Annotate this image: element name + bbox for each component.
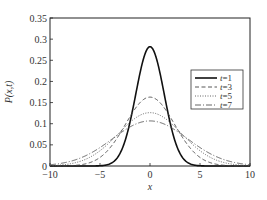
x-tick-label: −10 (42, 169, 58, 180)
y-tick-label: 0.2 (35, 76, 48, 87)
series-line-t7 (50, 121, 250, 165)
y-axis-label: P(x,t) (3, 80, 15, 104)
x-tick-label: 5 (198, 169, 203, 180)
y-tick-label: 0.05 (30, 139, 48, 150)
y-tick-label: 0.25 (30, 55, 48, 66)
legend: t=1t=3t=5t=7 (191, 70, 243, 110)
y-tick-label: 0.15 (30, 97, 48, 108)
legend-box (191, 70, 243, 109)
y-tick-label: 0.3 (35, 34, 48, 45)
chart: 00.050.10.150.20.250.30.35 −10−50510 x P… (0, 0, 267, 200)
y-tick-label: 0.35 (30, 13, 48, 24)
x-tick-label: 10 (245, 169, 255, 180)
x-tick-label: 0 (148, 169, 153, 180)
y-axis-ticks: 00.050.10.150.20.250.30.35 (30, 13, 54, 172)
legend-label: t=7 (220, 100, 233, 110)
y-tick-label: 0.1 (35, 118, 48, 129)
x-tick-label: −5 (95, 169, 106, 180)
x-axis-label: x (147, 181, 153, 192)
